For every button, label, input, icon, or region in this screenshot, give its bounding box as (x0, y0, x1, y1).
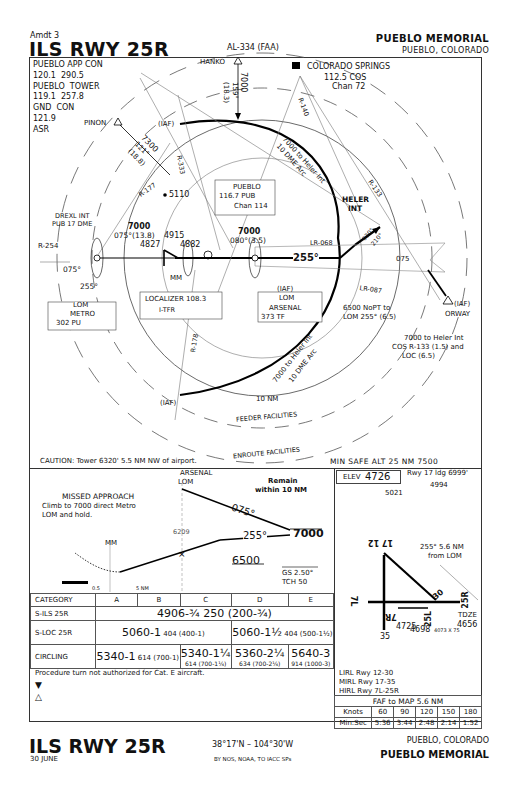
time-180: 1:52 (459, 718, 481, 729)
circling-ab: 5340-1 614 (700-1) (96, 645, 181, 669)
knots-180: 180 (459, 707, 481, 718)
s-loc-de-detail: 404 (500-1½) (284, 630, 332, 638)
runway-7r-label: 7R (385, 612, 397, 620)
s-loc-abc: 5060-1 404 (400-1) (96, 621, 232, 645)
time-label: Min:Sec (335, 718, 372, 729)
knots-90: 90 (394, 707, 416, 718)
circling-e-detail: 914 (1000-3) (289, 660, 333, 667)
category-c: C (180, 594, 231, 607)
circling-d: 5360-2¼634 (700-2¼) (231, 645, 288, 669)
elevation-4698: 4698 (410, 626, 430, 634)
timing-time-row: Min:Sec 5:36 3:44 2:48 2:14 1:52 (335, 718, 482, 729)
footer-city-state: PUEBLO, COLORADO (407, 737, 489, 745)
circling-c: 5340-1¼614 (700-1¼) (180, 645, 231, 669)
minimums-row-s-ils: S-ILS 25R 4906-¾ 250 (200-¾) (31, 607, 334, 621)
category-e: E (288, 594, 333, 607)
footer-procedure-title: ILS RWY 25R (29, 737, 166, 756)
runway-35-label: 35 (380, 633, 390, 641)
s-ils-label: S-ILS 25R (31, 607, 96, 621)
footer-date: 30 JUNE (30, 756, 58, 763)
circling-ab-detail: 614 (700-1) (138, 654, 179, 662)
timing-table: FAF to MAP 5.6 NM Knots 60 90 120 150 18… (334, 695, 482, 729)
circling-e: 5640-3914 (1000-3) (288, 645, 333, 669)
knots-label: Knots (335, 707, 372, 718)
knots-150: 150 (438, 707, 460, 718)
runway-17-12-label: 17 12 (368, 538, 393, 546)
procedure-note: Procedure turn not authorized for Cat. E… (35, 670, 205, 677)
minimums-header-row: CATEGORY A B C D E (31, 594, 334, 607)
knots-60: 60 (372, 707, 394, 718)
category-b: B (138, 594, 180, 607)
tdze-value: 4656 (457, 621, 477, 629)
minimums-row-s-loc: S-LOC 25R 5060-1 404 (400-1) 5060-1½ 404… (31, 621, 334, 645)
circling-d-value: 5360-2¼ (232, 647, 288, 660)
timing-title: FAF to MAP 5.6 NM (335, 696, 482, 707)
time-90: 3:44 (394, 718, 416, 729)
s-loc-de: 5060-1½ 404 (500-1½) (231, 621, 333, 645)
time-120: 2:48 (416, 718, 438, 729)
time-150: 2:14 (438, 718, 460, 729)
tdze-label: TDZE (458, 612, 477, 619)
footer-coordinates: 38°17'N – 104°30'W (212, 741, 293, 749)
circling-c-value: 5340-1¼ (181, 647, 231, 660)
lighting-rwy-17-35: MIRL Rwy 17-35 (339, 679, 395, 686)
circling-ab-value: 5340-1 (96, 650, 135, 663)
s-loc-de-value: 5060-1½ (232, 626, 282, 639)
circling-c-detail: 614 (700-1¼) (181, 660, 231, 667)
s-loc-label: S-LOC 25R (31, 621, 96, 645)
timing-knots-row: Knots 60 90 120 150 180 (335, 707, 482, 718)
knots-120: 120 (416, 707, 438, 718)
footer-airport-name: PUEBLO MEMORIAL (380, 750, 489, 760)
circling-e-value: 5640-3 (289, 647, 333, 660)
footer-publisher: BY NOS, NOAA, TO IACC SPs (214, 757, 291, 763)
circling-label: CIRCLING (31, 645, 96, 669)
lighting-rwy-7l-25r: HIRL Rwy 7L-25R (339, 688, 399, 695)
s-ils-minimums: 4906-¾ 250 (200-¾) (96, 607, 334, 621)
lighting-rwy-12-30: LIRL Rwy 12-30 (339, 670, 393, 677)
s-loc-abc-detail: 404 (400-1) (163, 630, 204, 638)
s-loc-abc-value: 5060-1 (122, 626, 161, 639)
circling-d-detail: 634 (700-2¼) (232, 660, 288, 667)
takeoff-minimums-icon: ▼ (35, 681, 42, 690)
runway-25l-dimensions: 4073 X 75 (434, 628, 460, 633)
category-d: D (231, 594, 288, 607)
alternate-minimums-icon: △ (35, 693, 42, 702)
minimums-table: CATEGORY A B C D E S-ILS 25R 4906-¾ 250 … (30, 593, 334, 669)
minimums-row-circling: CIRCLING 5340-1 614 (700-1) 5340-1¼614 (… (31, 645, 334, 669)
category-header: CATEGORY (31, 594, 96, 607)
runway-25r-label: 25R (462, 591, 470, 608)
category-a: A (96, 594, 138, 607)
runway-7l-label: 7L (349, 596, 357, 607)
timing-title-row: FAF to MAP 5.6 NM (335, 696, 482, 707)
time-60: 5:36 (372, 718, 394, 729)
